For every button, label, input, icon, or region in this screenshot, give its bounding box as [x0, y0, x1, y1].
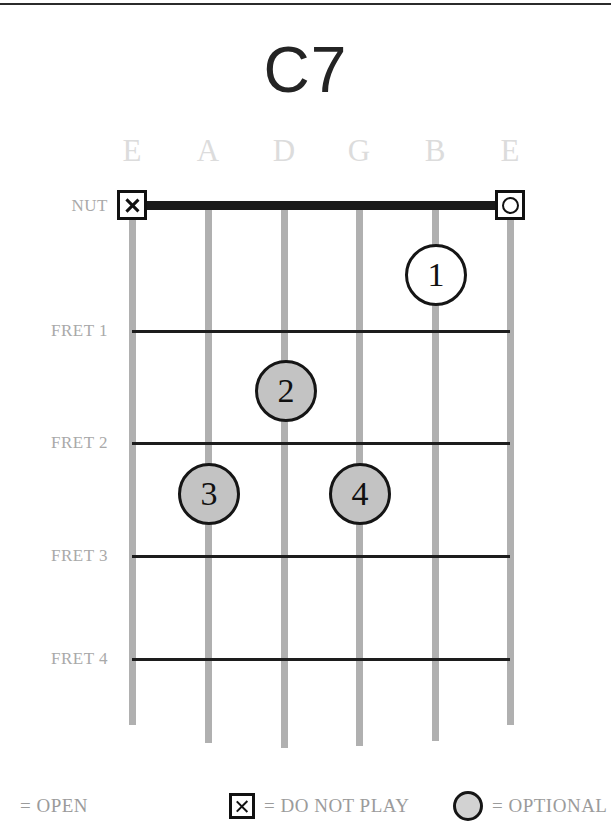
row-label-fret-4: FRET 4: [0, 650, 108, 668]
legend-item-optional: = OPTIONAL: [453, 786, 607, 826]
legend-label-optional: = OPTIONAL: [492, 795, 607, 817]
do-not-play-marker-low-e[interactable]: [117, 190, 147, 220]
string-label-1: E: [110, 134, 154, 168]
finger-dot-label: 1: [428, 258, 445, 292]
x-icon: [124, 197, 141, 214]
string-low-e: [129, 205, 136, 725]
row-label-fret-3: FRET 3: [0, 547, 108, 565]
string-d: [281, 205, 288, 748]
open-string-marker-high-e[interactable]: [495, 190, 525, 220]
legend-label-open: = OPEN: [20, 795, 88, 817]
fret-wire-1: [132, 330, 510, 333]
chord-diagram-page: C7 E A D G B E NUT FRET 1 FRET 2 FRET 3 …: [0, 0, 611, 826]
row-label-nut: NUT: [0, 197, 108, 215]
string-label-6: E: [488, 134, 532, 168]
string-label-2: A: [186, 134, 230, 168]
finger-dot-label: 4: [352, 477, 369, 511]
gray-circle-icon: [453, 791, 483, 821]
legend-label-do-not-play: = DO NOT PLAY: [264, 795, 409, 817]
finger-dot-label: 3: [201, 477, 218, 511]
fret-wire-2: [132, 442, 510, 445]
circle-icon: [502, 197, 519, 214]
fret-wire-4: [132, 658, 510, 661]
finger-dot-4[interactable]: 4: [329, 463, 391, 525]
legend-item-do-not-play: = DO NOT PLAY: [229, 786, 409, 826]
string-label-4: G: [337, 134, 381, 168]
nut-bar: [132, 201, 510, 210]
x-square-icon: [229, 793, 255, 819]
finger-dot-1[interactable]: 1: [405, 244, 467, 306]
page-title: C7: [0, 38, 611, 102]
fret-wire-3: [132, 555, 510, 558]
page-top-rule: [0, 3, 611, 5]
string-label-3: D: [262, 134, 306, 168]
finger-dot-2[interactable]: 2: [255, 360, 317, 422]
string-label-5: B: [413, 134, 457, 168]
finger-dot-3[interactable]: 3: [178, 463, 240, 525]
row-label-fret-1: FRET 1: [0, 322, 108, 340]
finger-dot-label: 2: [278, 374, 295, 408]
legend-item-open: = OPEN: [20, 786, 88, 826]
row-label-fret-2: FRET 2: [0, 434, 108, 452]
string-high-e: [507, 205, 514, 725]
